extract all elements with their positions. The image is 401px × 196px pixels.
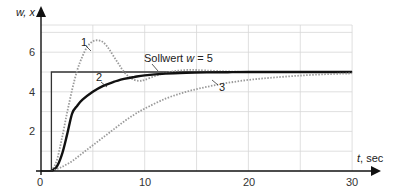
y-tick-6: 6 bbox=[29, 46, 35, 58]
annotation-leader bbox=[152, 64, 158, 71]
series-3 bbox=[51, 73, 352, 171]
y-axis-label: w, x bbox=[16, 6, 35, 18]
x-axis-arrow-icon bbox=[371, 166, 381, 176]
y-tick-2: 2 bbox=[29, 125, 35, 137]
curve-leader-3 bbox=[212, 80, 218, 85]
x-tick-10: 10 bbox=[139, 176, 151, 188]
step-response-chart: w, x t, sec 0 10 20 30 2 4 6 Sollwert w … bbox=[0, 0, 401, 196]
annotation-suffix: = 5 bbox=[194, 52, 213, 64]
setpoint-annotation: Sollwert w = 5 bbox=[144, 52, 213, 64]
curve-leader-1 bbox=[86, 46, 91, 51]
annotation-prefix: Sollwert bbox=[144, 52, 186, 64]
series-2 bbox=[51, 72, 352, 171]
x-tick-0: 0 bbox=[37, 176, 43, 188]
curve-label-2: 2 bbox=[96, 71, 102, 83]
x-tick-20: 20 bbox=[243, 176, 255, 188]
y-axis-arrow-icon bbox=[36, 6, 46, 17]
curve-label-3: 3 bbox=[219, 81, 225, 93]
x-tick-30: 30 bbox=[346, 176, 358, 188]
x-axis-label: t, sec bbox=[357, 152, 384, 164]
y-tick-4: 4 bbox=[29, 86, 35, 98]
x-axis-unit: , sec bbox=[360, 152, 384, 164]
